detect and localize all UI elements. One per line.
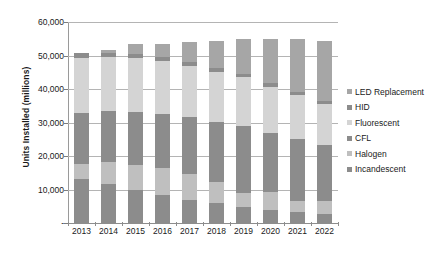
bar-segment[interactable] (101, 184, 116, 223)
legend-swatch-icon (347, 167, 352, 172)
y-tick-label-0: - (8, 218, 64, 228)
bar-segment[interactable] (182, 174, 197, 200)
legend-item[interactable]: Fluorescent (347, 115, 447, 131)
bar-stack-2020[interactable] (263, 39, 278, 223)
bar-segment[interactable] (155, 195, 170, 223)
legend-swatch-icon (347, 89, 352, 94)
x-tick-label-2017: 2017 (175, 226, 205, 236)
x-tick-label-2018: 2018 (202, 226, 232, 236)
bar-segment[interactable] (263, 210, 278, 223)
bar-segment[interactable] (236, 207, 251, 223)
legend-label: LED Replacement (355, 88, 424, 97)
bar-segment[interactable] (236, 39, 251, 74)
chart-legend: LED ReplacementHIDFluorescentCFLHalogenI… (347, 84, 447, 177)
bar-segment[interactable] (317, 41, 332, 101)
y-tick-label-50000: 50,000 (8, 51, 64, 61)
bar-segment[interactable] (155, 61, 170, 114)
x-tick-label-2015: 2015 (121, 226, 151, 236)
bar-segment[interactable] (317, 201, 332, 214)
bar-segment[interactable] (182, 200, 197, 223)
bar-segment[interactable] (290, 201, 305, 212)
y-tick-label-10000: 10,000 (8, 185, 64, 195)
legend-item[interactable]: LED Replacement (347, 84, 447, 100)
bar-segment[interactable] (263, 192, 278, 209)
bar-stack-2019[interactable] (236, 39, 251, 223)
bar-segment[interactable] (74, 179, 89, 223)
bar-segment[interactable] (290, 95, 305, 139)
bar-stack-2018[interactable] (209, 41, 224, 223)
bar-segment[interactable] (209, 122, 224, 182)
legend-swatch-icon (347, 105, 352, 110)
legend-swatch-icon (347, 151, 352, 156)
legend-label: HID (355, 103, 370, 112)
bar-stack-2013[interactable] (74, 53, 89, 223)
bar-stack-2017[interactable] (182, 42, 197, 223)
bar-segment[interactable] (128, 165, 143, 189)
bar-segment[interactable] (182, 117, 197, 174)
x-axis-tick-labels: 2013201420152016201720182019202020212022 (68, 226, 338, 240)
bar-segment[interactable] (74, 58, 89, 113)
bar-segment[interactable] (128, 44, 143, 54)
bar-stack-2021[interactable] (290, 39, 305, 223)
bar-segment[interactable] (128, 58, 143, 112)
bar-segment[interactable] (182, 42, 197, 62)
bar-segment[interactable] (209, 182, 224, 203)
legend-label: Incandescent (355, 165, 406, 174)
bar-segment[interactable] (209, 203, 224, 223)
x-tick-label-2013: 2013 (67, 226, 97, 236)
bar-segment[interactable] (74, 164, 89, 179)
x-tick-mark (338, 222, 339, 226)
plot-area (68, 22, 338, 223)
bar-segment[interactable] (182, 66, 197, 117)
legend-label: Fluorescent (355, 119, 399, 128)
y-tick-label-60000: 60,000 (8, 17, 64, 27)
legend-item[interactable]: HID (347, 100, 447, 116)
x-tick-label-2014: 2014 (94, 226, 124, 236)
legend-swatch-icon (347, 136, 352, 141)
stacked-bar-chart: Units Installed (millions) -10,00020,000… (0, 0, 447, 256)
legend-item[interactable]: Incandescent (347, 162, 447, 178)
bar-segment[interactable] (263, 133, 278, 192)
bar-segment[interactable] (155, 168, 170, 195)
bar-segment[interactable] (101, 111, 116, 161)
bar-segment[interactable] (209, 72, 224, 122)
bar-stack-2016[interactable] (155, 44, 170, 223)
legend-swatch-icon (347, 120, 352, 125)
y-tick-label-40000: 40,000 (8, 84, 64, 94)
bar-segment[interactable] (290, 39, 305, 92)
y-tick-label-20000: 20,000 (8, 151, 64, 161)
bar-segment[interactable] (263, 87, 278, 134)
bar-segment[interactable] (128, 112, 143, 166)
bar-segment[interactable] (101, 57, 116, 111)
y-tick-label-30000: 30,000 (8, 118, 64, 128)
x-tick-label-2022: 2022 (310, 226, 340, 236)
x-tick-label-2021: 2021 (283, 226, 313, 236)
x-tick-label-2019: 2019 (229, 226, 259, 236)
bar-segment[interactable] (236, 193, 251, 207)
bar-segment[interactable] (236, 77, 251, 126)
bar-segment[interactable] (290, 139, 305, 201)
bar-segment[interactable] (155, 114, 170, 169)
bar-segment[interactable] (236, 126, 251, 193)
x-tick-label-2020: 2020 (256, 226, 286, 236)
bar-segment[interactable] (74, 113, 89, 164)
legend-label: CFL (355, 134, 371, 143)
bar-segment[interactable] (101, 162, 116, 185)
bars-layer (68, 22, 338, 223)
bar-segment[interactable] (317, 104, 332, 145)
bar-segment[interactable] (209, 41, 224, 68)
bar-segment[interactable] (155, 44, 170, 56)
x-tick-label-2016: 2016 (148, 226, 178, 236)
bar-segment[interactable] (317, 214, 332, 223)
legend-label: Halogen (355, 150, 387, 159)
bar-segment[interactable] (317, 145, 332, 201)
bar-stack-2022[interactable] (317, 41, 332, 223)
bar-stack-2015[interactable] (128, 44, 143, 223)
legend-item[interactable]: Halogen (347, 146, 447, 162)
bar-stack-2014[interactable] (101, 50, 116, 223)
bar-segment[interactable] (290, 212, 305, 223)
bar-segment[interactable] (128, 190, 143, 223)
bar-segment[interactable] (263, 39, 278, 83)
legend-item[interactable]: CFL (347, 131, 447, 147)
